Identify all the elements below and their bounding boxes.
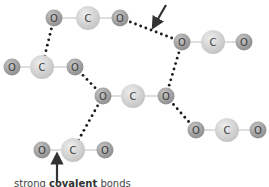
- atom-symbol: C: [70, 145, 77, 156]
- top-arrow-icon: [155, 5, 166, 24]
- bottom-caption-prefix: strong: [14, 178, 49, 187]
- label-covalent-bonds: strong covalent bonds: [14, 178, 131, 187]
- intermolecular-bond: [43, 27, 52, 57]
- co2-molecule: OCO: [4, 55, 84, 79]
- atom-symbol: O: [8, 62, 16, 73]
- molecules-layer: OCOOCOOCOOCOOCOOCO: [4, 6, 267, 162]
- intermolecular-bond: [168, 51, 180, 86]
- top-caption-text: between molecules: [136, 0, 233, 2]
- atom-symbol: C: [210, 37, 217, 48]
- atom-symbol: O: [116, 13, 124, 24]
- intermolecular-bond: [129, 21, 173, 40]
- co2-molecule: OCO: [174, 30, 253, 54]
- atom-symbol: O: [240, 37, 248, 48]
- atom-symbol: O: [178, 37, 186, 48]
- atom-symbol: O: [71, 62, 79, 73]
- atom-symbol: O: [101, 145, 109, 156]
- intermolecular-forces: [43, 21, 190, 142]
- intermolecular-bond: [172, 103, 190, 123]
- intermolecular-bond: [77, 104, 99, 141]
- bottom-caption-bold: covalent: [49, 178, 97, 187]
- intermolecular-bond: [82, 74, 97, 89]
- atom-symbol: C: [130, 91, 137, 102]
- atom-symbol: O: [99, 91, 107, 102]
- bottom-caption-suffix: bonds: [97, 178, 131, 187]
- atom-symbol: O: [162, 91, 170, 102]
- atom-symbol: C: [85, 13, 92, 24]
- co2-molecule: OCO: [188, 118, 267, 142]
- co2-molecule-diagram: OCOOCOOCOOCOOCOOCO: [0, 0, 269, 187]
- atom-symbol: C: [224, 125, 231, 136]
- co2-molecule: OCO: [95, 84, 175, 108]
- co2-molecule: OCO: [34, 138, 114, 162]
- atom-symbol: C: [39, 62, 46, 73]
- atom-symbol: O: [254, 125, 262, 136]
- atom-symbol: O: [50, 13, 58, 24]
- label-between-molecules: between molecules: [136, 0, 233, 2]
- atom-symbol: O: [192, 125, 200, 136]
- co2-molecule: OCO: [46, 6, 129, 30]
- atom-symbol: O: [38, 145, 46, 156]
